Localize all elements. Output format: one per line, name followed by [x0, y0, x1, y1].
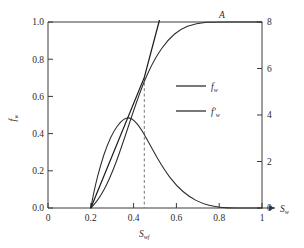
right-tick-0: 0 — [267, 203, 272, 213]
left-tick-4: 0.8 — [32, 55, 44, 65]
svg-text:fw: fw — [211, 82, 219, 93]
left-axis-ticks — [48, 22, 53, 208]
svg-text:Sw: Sw — [280, 204, 290, 215]
x-axis-label-sub: w — [285, 208, 290, 215]
x-tick-2: 0.4 — [128, 213, 140, 223]
chart-legend: fw f′w — [176, 82, 221, 118]
left-tick-3: 0.6 — [32, 92, 44, 102]
legend-fw-prime-label-sub: w — [216, 111, 221, 118]
right-tick-3: 6 — [267, 64, 272, 74]
swf-label-sub: wf — [144, 233, 151, 240]
point-a-label: A — [218, 10, 225, 20]
left-tick-5: 1.0 — [32, 17, 44, 27]
svg-text:f′w: f′w — [211, 107, 221, 118]
fractional-flow-chart: 0.0 0.2 0.4 0.6 0.8 1.0 0 2 4 6 8 0 0.2 … — [0, 0, 304, 248]
left-axis-tick-labels: 0.0 0.2 0.4 0.6 0.8 1.0 — [32, 17, 44, 213]
legend-fw-label-sub: w — [214, 86, 219, 93]
x-tick-5: 1 — [260, 213, 265, 223]
point-a-annotation: A — [218, 10, 225, 20]
plot-frame — [48, 22, 262, 208]
left-tick-1: 0.2 — [32, 166, 44, 176]
right-axis-ticks — [257, 22, 262, 208]
svg-text:fw: fw — [8, 114, 19, 122]
right-axis-tick-labels: 0 2 4 6 8 — [267, 17, 272, 213]
tangent-line — [91, 20, 160, 208]
x-axis-tick-labels: 0 0.2 0.4 0.6 0.8 1 — [46, 213, 265, 223]
curve-fw-prime — [91, 118, 262, 208]
svg-text:Swf: Swf — [139, 229, 151, 240]
y-axis-label: fw — [8, 114, 19, 122]
x-tick-1: 0.2 — [85, 213, 97, 223]
right-tick-2: 4 — [267, 110, 272, 120]
chart-figure: 0.0 0.2 0.4 0.6 0.8 1.0 0 2 4 6 8 0 0.2 … — [0, 0, 304, 248]
legend-item-fw: fw — [176, 82, 219, 93]
x-tick-3: 0.6 — [170, 213, 182, 223]
right-tick-4: 8 — [267, 17, 272, 27]
swf-annotation: Swf — [139, 229, 151, 240]
legend-item-fw-prime: f′w — [176, 107, 221, 118]
y-axis-label-sub: w — [12, 114, 19, 119]
x-tick-0: 0 — [46, 213, 51, 223]
left-tick-0: 0.0 — [32, 203, 44, 213]
left-tick-2: 0.4 — [32, 129, 44, 139]
curve-fw — [91, 22, 262, 208]
right-tick-1: 2 — [267, 157, 272, 167]
x-axis-label: Sw — [280, 204, 290, 215]
x-tick-4: 0.8 — [213, 213, 225, 223]
x-axis-ticks — [48, 203, 262, 208]
